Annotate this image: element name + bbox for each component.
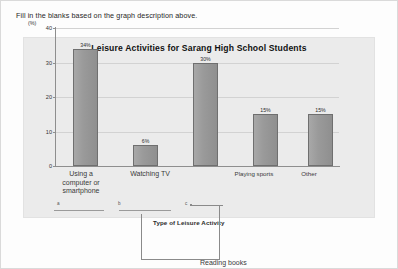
- bar-using-computer: 34%: [73, 49, 98, 166]
- x-label-other: Other: [289, 170, 329, 179]
- leader-line-bottom: [219, 205, 220, 259]
- y-tick-40: 40: [46, 25, 52, 31]
- blank-underline-b[interactable]: [119, 210, 171, 211]
- blank-underline-a[interactable]: [54, 210, 104, 211]
- bar-value-3: 30%: [200, 56, 210, 62]
- blank-marker-a[interactable]: a: [57, 201, 60, 206]
- worksheet-page: Fill in the blanks based on the graph de…: [0, 0, 398, 269]
- x-label-watching-tv: Watching TV: [119, 170, 181, 179]
- y-tick-30: 30: [46, 60, 52, 66]
- x-label-using-computer: Using a computer or smartphone: [50, 170, 112, 196]
- y-tick-10: 10: [46, 129, 52, 135]
- bottom-annotation-reading-books: Reading books: [200, 259, 247, 266]
- bar-value-1: 34%: [80, 42, 90, 48]
- bar-other: 15%: [308, 114, 333, 166]
- bar-watching-tv: 6%: [133, 145, 158, 166]
- bar-value-5: 15%: [315, 107, 325, 113]
- bar-value-2: 6%: [142, 138, 150, 144]
- bar-blank-c: 30%: [193, 63, 218, 167]
- x-label-playing-sports: Playing sports: [223, 170, 285, 179]
- bar-playing-sports: 15%: [253, 114, 278, 166]
- gridline-0: 0: [56, 166, 339, 167]
- gridline-40: 40: [56, 28, 339, 29]
- bar-value-4: 15%: [260, 107, 270, 113]
- y-axis-unit-label: (%): [28, 20, 36, 26]
- blank-marker-c[interactable]: c: [185, 201, 187, 206]
- blank-box-left: [141, 214, 142, 260]
- y-tick-20: 20: [46, 94, 52, 100]
- instruction-text: Fill in the blanks based on the graph de…: [16, 11, 197, 20]
- blank-marker-b[interactable]: b: [118, 201, 121, 206]
- y-tick-0: 0: [49, 163, 52, 169]
- x-axis-title: Type of Leisure Activity: [153, 219, 225, 226]
- plot-area: 40 30 20 10 0 34% 6% 30% 15%: [56, 28, 339, 166]
